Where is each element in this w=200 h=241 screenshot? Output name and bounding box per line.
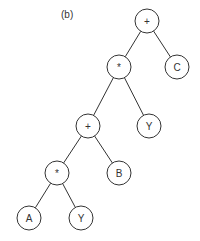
tree-node: C [165, 55, 189, 79]
tree-edge [35, 183, 50, 208]
node-label: * [117, 62, 121, 73]
tree-node: Y [69, 206, 93, 230]
node-label: + [85, 121, 91, 132]
tree-node: + [135, 9, 159, 33]
tree-node: * [45, 161, 69, 185]
tree-node: * [107, 55, 131, 79]
expression-tree: +*C+Y*BAY [0, 0, 200, 241]
node-label: C [173, 62, 180, 73]
tree-edge [94, 78, 114, 116]
tree-edge [95, 136, 113, 163]
tree-edge [63, 184, 76, 208]
tree-edge [124, 78, 143, 116]
tree-edge [125, 31, 141, 56]
tree-node: + [76, 114, 100, 138]
node-label: + [144, 16, 150, 27]
tree-node: B [107, 161, 131, 185]
node-label: * [55, 168, 59, 179]
node-label: Y [78, 213, 85, 224]
tree-edge [154, 31, 171, 57]
tree-edge [64, 136, 82, 163]
tree-node: A [17, 206, 41, 230]
node-label: B [116, 168, 123, 179]
node-label: A [26, 213, 33, 224]
tree-node: Y [137, 114, 161, 138]
node-label: Y [146, 121, 153, 132]
